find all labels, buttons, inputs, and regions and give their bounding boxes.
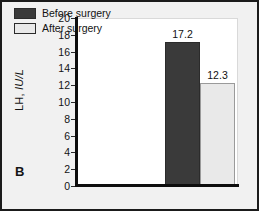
y-axis-tick-label: 14 [42, 63, 70, 74]
bar-value-label: 12.3 [207, 70, 227, 81]
y-axis-tick-label: 2 [42, 164, 70, 175]
y-axis-tick-label: 4 [42, 147, 70, 158]
legend-label: After surgery [42, 23, 102, 34]
y-axis-tick-label: 8 [42, 114, 70, 125]
y-axis-tick-label: 10 [42, 97, 70, 108]
y-axis-tick-label: 0 [42, 181, 70, 192]
y-axis-title: LH, IU/L [13, 50, 25, 130]
chart-legend: Before surgeryAfter surgery [14, 6, 111, 36]
bar-before-surgery: 17.2 [165, 42, 200, 186]
legend-label: Before surgery [42, 8, 111, 19]
legend-item: Before surgery [14, 6, 111, 20]
bar-after-surgery: 12.3 [200, 83, 235, 186]
bar-value-label: 17.2 [172, 29, 192, 40]
plot-area: 17.212.3 [77, 18, 238, 186]
y-axis-title-prefix: LH, [13, 90, 25, 111]
y-axis-title-unit: IU/L [13, 69, 25, 90]
panel-label: B [15, 165, 24, 178]
x-axis-line [75, 184, 239, 187]
figure-panel: B LH, IU/L 20181614121086420 17.212.3 Be… [0, 0, 259, 211]
legend-swatch-icon [14, 8, 36, 19]
legend-swatch-icon [14, 23, 36, 34]
y-axis-tick-label: 6 [42, 130, 70, 141]
y-axis-tick-label: 16 [42, 46, 70, 57]
legend-item: After surgery [14, 21, 111, 35]
y-axis-tick-label: 12 [42, 80, 70, 91]
y-axis-tick-labels: 20181614121086420 [42, 18, 70, 186]
y-axis-line [75, 17, 78, 187]
